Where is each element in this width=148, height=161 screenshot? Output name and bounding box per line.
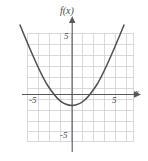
y-tick-label-5: 5	[64, 32, 69, 41]
x-tick-label-5: 5	[112, 96, 117, 105]
x-axis-label: x	[135, 88, 139, 97]
y-tick-label-neg5: -5	[60, 131, 68, 140]
graph-figure: f(x) x 5 -5 5 -5	[0, 0, 148, 161]
y-axis-arrowhead	[69, 16, 75, 23]
grid-lines	[27, 33, 134, 142]
function-label: f(x)	[60, 6, 74, 16]
x-tick-label-neg5: -5	[29, 96, 37, 105]
coordinate-plane-svg	[0, 0, 148, 161]
